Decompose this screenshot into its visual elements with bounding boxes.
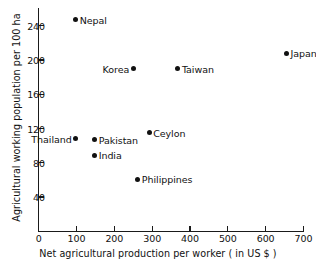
data-point-label: Japan [290,48,316,59]
x-tick-mark [152,226,153,232]
x-tick-mark [114,226,115,232]
data-point-marker [92,153,97,158]
data-point-label: Thailand [31,133,71,144]
data-point-label: Taiwan [182,63,214,74]
data-point-marker [73,136,78,141]
data-point-label: Pakistan [99,134,138,145]
data-point-label: Ceylon [153,127,185,138]
x-tick-label: 100 [60,233,94,244]
x-tick-label: 600 [249,233,283,244]
data-point-marker [92,137,97,142]
x-tick-mark [227,226,228,232]
data-point-marker [135,177,140,182]
data-point-label: Nepal [80,14,107,25]
data-point-marker [131,66,136,71]
x-tick-label: 400 [173,233,207,244]
x-tick-label: 300 [135,233,169,244]
x-tick-label: 700 [287,233,317,244]
y-axis-title: Agricultural working population per 100 … [11,3,22,233]
scatter-plot-figure: 4080120160200240 0100200300400500600700 … [0,0,316,273]
x-tick-mark [76,226,77,232]
data-point-marker [175,66,180,71]
data-point-label: Philippines [142,174,193,185]
data-point-label: Korea [103,63,130,74]
x-tick-mark [303,226,304,232]
x-tick-mark [189,226,190,232]
data-point-marker [284,51,289,56]
x-tick-label: 200 [97,233,131,244]
x-axis-title: Net agricultural production per worker (… [0,248,316,259]
x-tick-mark [265,226,266,232]
data-point-marker [73,17,78,22]
data-point-marker [147,130,152,135]
x-tick-label: 500 [211,233,245,244]
data-point-label: India [99,150,122,161]
x-tick-label: 0 [22,233,56,244]
